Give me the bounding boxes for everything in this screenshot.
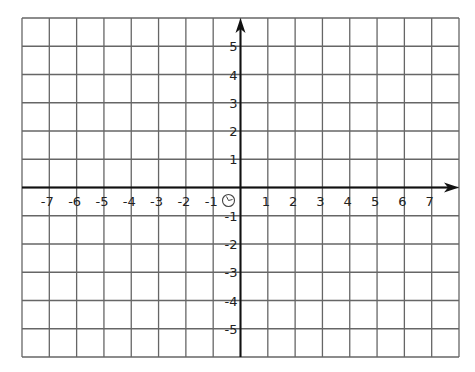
y-tick-label: -2	[225, 237, 238, 252]
y-tick-label: 2	[229, 124, 237, 139]
x-tick-label: 7	[426, 194, 434, 209]
x-tick-label: 2	[289, 194, 297, 209]
x-tick-label: 3	[316, 194, 324, 209]
y-tick-label: 4	[229, 68, 237, 83]
x-tick-label: 5	[371, 194, 379, 209]
y-tick-label: 3	[229, 96, 237, 111]
y-tick-label: 5	[229, 39, 237, 54]
y-tick-label: 1	[229, 152, 237, 167]
x-tick-label: -5	[95, 194, 108, 209]
x-tick-label: -7	[41, 194, 54, 209]
x-tick-label: -3	[150, 194, 163, 209]
axes	[22, 18, 459, 357]
y-tick-label: -4	[225, 294, 238, 309]
y-tick-label: -3	[225, 265, 238, 280]
x-tick-label: 4	[344, 194, 352, 209]
x-axis-labels: -7-6-5-4-3-2-11234567	[41, 194, 434, 209]
origin-label	[223, 195, 235, 207]
coordinate-plane: -7-6-5-4-3-2-11234567 54321-1-2-3-4-5	[0, 0, 475, 372]
origin-tick-mark	[227, 197, 233, 201]
x-tick-label: -1	[205, 194, 218, 209]
x-tick-label: -4	[123, 194, 136, 209]
x-tick-label: -6	[68, 194, 81, 209]
y-tick-label: -1	[225, 209, 238, 224]
y-tick-label: -5	[225, 322, 238, 337]
x-tick-label: -2	[177, 194, 190, 209]
x-tick-label: 6	[398, 194, 406, 209]
x-tick-label: 1	[262, 194, 270, 209]
